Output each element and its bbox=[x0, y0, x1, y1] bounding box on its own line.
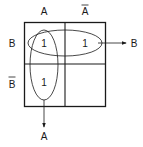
karnaugh-map-diagram: A A B B 1 1 1 B A bbox=[0, 0, 143, 147]
row-header-b: B bbox=[9, 38, 16, 49]
cell-ab: 1 bbox=[41, 38, 47, 49]
row-header-b-bar: B bbox=[9, 79, 16, 90]
output-label-b: B bbox=[131, 38, 138, 49]
cell-a-bbar: 1 bbox=[41, 77, 47, 88]
column-header-a-bar: A bbox=[82, 6, 89, 17]
column-header-a: A bbox=[41, 6, 48, 17]
cell-abar-b: 1 bbox=[82, 38, 88, 49]
output-label-a: A bbox=[41, 131, 48, 142]
